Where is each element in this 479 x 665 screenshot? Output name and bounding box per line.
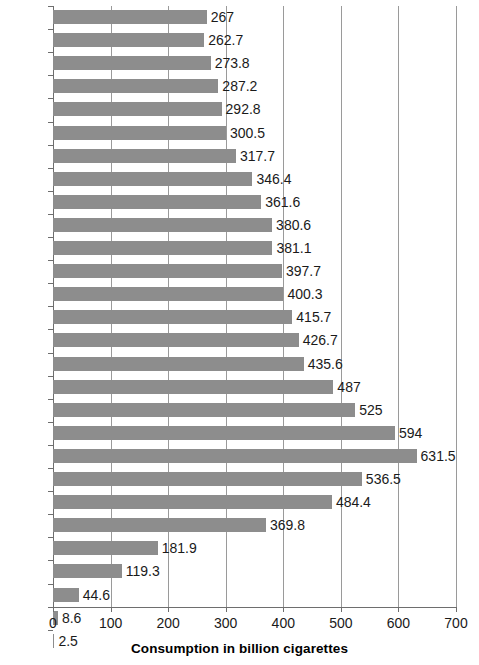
y-tick-mark bbox=[48, 306, 53, 307]
bar bbox=[53, 588, 79, 602]
x-tick-label-300: 300 bbox=[214, 614, 237, 632]
y-tick-mark bbox=[48, 537, 53, 538]
bar bbox=[53, 10, 207, 24]
y-tick-mark bbox=[48, 399, 53, 400]
x-axis-title: Consumption in billion cigarettes bbox=[0, 641, 479, 656]
x-tick-label-200: 200 bbox=[156, 614, 179, 632]
y-tick-mark bbox=[48, 168, 53, 169]
bar bbox=[53, 149, 236, 163]
bar-row: 1995487 bbox=[53, 376, 456, 399]
bar-row: 2003400.3 bbox=[53, 283, 456, 306]
bar bbox=[53, 33, 204, 47]
bar-value-label: 119.3 bbox=[122, 562, 160, 580]
bar-row: 1950369.8 bbox=[53, 514, 456, 537]
bar bbox=[53, 287, 283, 301]
bar bbox=[53, 79, 218, 93]
x-tick-mark-700 bbox=[456, 607, 457, 612]
x-tick-label-600: 600 bbox=[387, 614, 410, 632]
y-tick-mark bbox=[48, 584, 53, 585]
bar-chart: 20152672014262.72013273.82012287.2201129… bbox=[0, 0, 479, 665]
y-tick-mark bbox=[48, 98, 53, 99]
bar bbox=[53, 495, 332, 509]
bar bbox=[53, 357, 304, 371]
y-tick-mark bbox=[48, 283, 53, 284]
bar-row: 2010300.5 bbox=[53, 122, 456, 145]
bar-row: 1980631.5 bbox=[53, 445, 456, 468]
bar bbox=[53, 472, 362, 486]
bar-value-label: 292.8 bbox=[222, 100, 261, 118]
bar-value-label: 415.7 bbox=[292, 308, 331, 326]
bar bbox=[53, 264, 282, 278]
bar bbox=[53, 403, 355, 417]
bar-row: 2006380.6 bbox=[53, 214, 456, 237]
x-tick-mark-200 bbox=[168, 607, 169, 612]
bar-value-label: 487 bbox=[333, 378, 360, 396]
bar-row: 2002415.7 bbox=[53, 306, 456, 329]
bar bbox=[53, 241, 272, 255]
bar-row: 1990525 bbox=[53, 399, 456, 422]
bar-value-label: 267 bbox=[207, 8, 234, 26]
bar-value-label: 594 bbox=[395, 424, 422, 442]
y-tick-mark bbox=[48, 514, 53, 515]
bar-value-label: 300.5 bbox=[226, 124, 265, 142]
y-tick-mark bbox=[48, 560, 53, 561]
y-tick-mark bbox=[48, 237, 53, 238]
y-tick-mark bbox=[48, 122, 53, 123]
bar-value-label: 181.9 bbox=[158, 539, 197, 557]
bar-row: 2007361.6 bbox=[53, 191, 456, 214]
bar-value-label: 262.7 bbox=[204, 31, 243, 49]
y-tick-mark bbox=[48, 329, 53, 330]
x-tick-label-100: 100 bbox=[99, 614, 122, 632]
bar-value-label: 317.7 bbox=[236, 147, 275, 165]
bar bbox=[53, 541, 158, 555]
bar-row: 2013273.8 bbox=[53, 52, 456, 75]
bar bbox=[53, 310, 292, 324]
bar-row: 1985594 bbox=[53, 422, 456, 445]
x-tick-label-500: 500 bbox=[329, 614, 352, 632]
bar bbox=[53, 426, 395, 440]
x-tick-mark-600 bbox=[398, 607, 399, 612]
bar-value-label: 361.6 bbox=[261, 193, 300, 211]
plot-area: 20152672014262.72013273.82012287.2201129… bbox=[53, 6, 456, 607]
bar-value-label: 397.7 bbox=[282, 262, 321, 280]
y-tick-mark bbox=[48, 6, 53, 7]
bar bbox=[53, 518, 266, 532]
x-tick-label-0: 0 bbox=[49, 614, 57, 632]
bar bbox=[53, 449, 417, 463]
x-tick-label-400: 400 bbox=[272, 614, 295, 632]
y-tick-mark bbox=[48, 145, 53, 146]
bar bbox=[53, 172, 252, 186]
y-tick-mark bbox=[48, 445, 53, 446]
bar-row: 2012287.2 bbox=[53, 75, 456, 98]
bar bbox=[53, 564, 122, 578]
bar-row: 2004397.7 bbox=[53, 260, 456, 283]
bar-value-label: 273.8 bbox=[211, 54, 250, 72]
x-tick-mark-0 bbox=[53, 607, 54, 612]
x-axis-tick-labels: 0100200300400500600700 bbox=[0, 614, 479, 634]
y-tick-mark bbox=[48, 468, 53, 469]
bar-row: 1970536.5 bbox=[53, 468, 456, 491]
y-tick-mark bbox=[48, 52, 53, 53]
y-tick-mark bbox=[48, 191, 53, 192]
x-tick-mark-500 bbox=[341, 607, 342, 612]
bar-value-label: 346.4 bbox=[252, 170, 291, 188]
y-tick-mark bbox=[48, 491, 53, 492]
bar-value-label: 525 bbox=[355, 401, 382, 419]
bar-value-label: 369.8 bbox=[266, 516, 305, 534]
bar-row: 2014262.7 bbox=[53, 29, 456, 52]
bar bbox=[53, 126, 226, 140]
y-tick-mark bbox=[48, 29, 53, 30]
y-tick-mark bbox=[48, 75, 53, 76]
bar-row: 192044.6 bbox=[53, 584, 456, 607]
y-tick-mark bbox=[48, 214, 53, 215]
bar bbox=[53, 56, 211, 70]
bar bbox=[53, 195, 261, 209]
y-tick-mark bbox=[48, 376, 53, 377]
bar-value-label: 381.1 bbox=[272, 239, 311, 257]
bar bbox=[53, 218, 272, 232]
x-tick-mark-100 bbox=[111, 607, 112, 612]
y-tick-mark bbox=[48, 422, 53, 423]
bar-row: 1940181.9 bbox=[53, 537, 456, 560]
bar-row: 1960484.4 bbox=[53, 491, 456, 514]
bar-row: 2000435.6 bbox=[53, 353, 456, 376]
